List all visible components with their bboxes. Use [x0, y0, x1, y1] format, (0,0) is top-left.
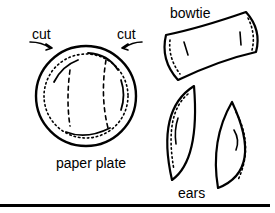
paper-plate-label: paper plate — [56, 156, 126, 170]
bowtie-label: bowtie — [170, 6, 210, 20]
cut-arrow-left-icon — [30, 42, 52, 50]
cut-left-label: cut — [32, 27, 51, 41]
bottom-rule — [0, 204, 270, 207]
ear-left-drawing — [167, 86, 195, 180]
paper-plate-drawing — [36, 46, 136, 146]
cut-arrow-right-icon — [122, 42, 142, 50]
ears-label: ears — [178, 186, 205, 200]
bowtie-drawing — [165, 12, 258, 80]
ear-right-drawing — [216, 102, 246, 188]
cut-right-label: cut — [117, 27, 136, 41]
